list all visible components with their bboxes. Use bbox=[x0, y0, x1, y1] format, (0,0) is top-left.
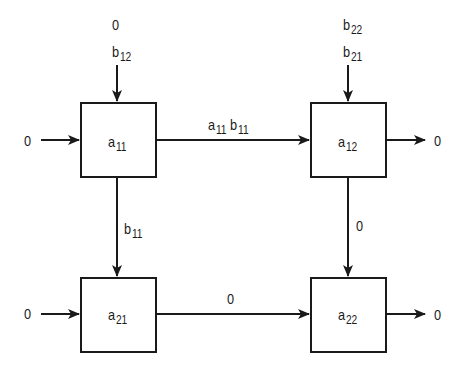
input-a11-left: 0 bbox=[24, 133, 31, 148]
input-a21-left: 0 bbox=[24, 306, 31, 321]
cell-a11: a11 bbox=[80, 102, 157, 178]
connection-layer bbox=[0, 0, 466, 373]
cell-a21-label: a21 bbox=[108, 307, 127, 328]
cell-a22: a22 bbox=[310, 277, 387, 353]
cell-a22-label: a22 bbox=[338, 307, 357, 328]
input-a11-top-second: b12 bbox=[112, 44, 131, 65]
cell-a21: a21 bbox=[80, 277, 157, 353]
cell-a12-label: a12 bbox=[338, 134, 357, 155]
cell-a11-label: a11 bbox=[108, 134, 127, 155]
edge-label-a21-to-a22: 0 bbox=[227, 291, 234, 306]
input-a11-top-first: 0 bbox=[112, 17, 119, 32]
edge-label-a12-to-a22: 0 bbox=[356, 218, 363, 233]
input-a12-top-second: b21 bbox=[343, 44, 362, 65]
cell-a12: a12 bbox=[310, 102, 387, 178]
output-a22-right: 0 bbox=[434, 307, 441, 322]
input-a12-top-first: b22 bbox=[343, 17, 362, 38]
output-a12-right: 0 bbox=[434, 133, 441, 148]
edge-label-a11-to-a12: a11 b11 bbox=[208, 117, 249, 138]
edge-label-a11-to-a21: b11 bbox=[124, 221, 143, 242]
